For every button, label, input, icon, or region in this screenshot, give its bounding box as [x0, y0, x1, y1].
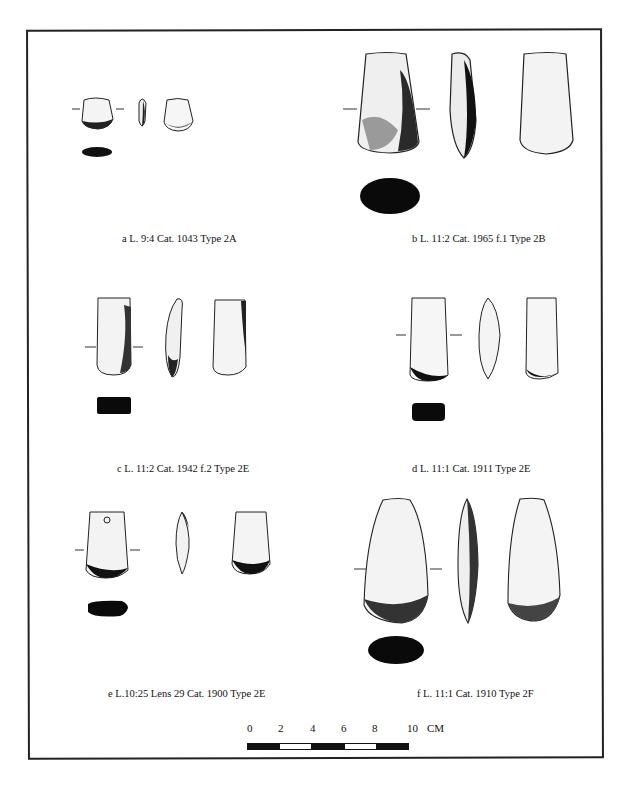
scale-tick-10: 10	[407, 722, 418, 734]
scale-tick-8: 8	[372, 722, 378, 734]
scale-segment	[377, 743, 409, 750]
scale-tick-4: 4	[310, 722, 316, 734]
caption-e: e L.10:25 Lens 29 Cat. 1900 Type 2E	[108, 688, 265, 699]
artifact-c-drawings	[80, 295, 270, 420]
scale-labels: 0 2 4 6 8 10 CM	[240, 722, 470, 736]
scale-unit: CM	[427, 722, 444, 734]
artifact-d-drawings	[360, 295, 580, 420]
scale-bar	[247, 743, 409, 750]
scale-tick-0: 0	[247, 722, 253, 734]
scale-segment	[247, 743, 279, 750]
artifact-b-drawings	[340, 50, 600, 220]
artifact-a-drawings	[60, 95, 210, 165]
artifact-f-drawings	[340, 495, 600, 670]
scale-segment	[312, 743, 344, 750]
caption-f: f L. 11:1 Cat. 1910 Type 2F	[417, 688, 534, 699]
caption-b: b L. 11:2 Cat. 1965 f.1 Type 2B	[412, 233, 545, 244]
scale-tick-6: 6	[341, 722, 347, 734]
caption-c: c L. 11:2 Cat. 1942 f.2 Type 2E	[117, 463, 249, 474]
artifact-e-drawings	[70, 508, 290, 623]
scale-segment	[344, 743, 376, 750]
caption-a: a L. 9:4 Cat. 1043 Type 2A	[122, 233, 237, 244]
scale-segment	[279, 743, 311, 750]
scale-tick-2: 2	[278, 722, 284, 734]
caption-d: d L. 11:1 Cat. 1911 Type 2E	[412, 463, 530, 474]
